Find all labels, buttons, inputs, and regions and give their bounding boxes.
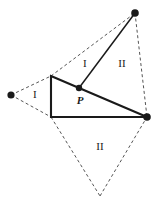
point-p-dot — [76, 85, 82, 91]
dashed-bottom-to-right — [100, 117, 147, 196]
dashed-left-to-lowerleft — [11, 95, 51, 117]
solid-segments-group — [79, 13, 135, 88]
solid-triangle — [51, 76, 147, 117]
left-vertex-dot — [7, 91, 14, 98]
dashed-lowerleft-to-bottom — [51, 117, 100, 196]
point-label-P: P — [77, 95, 84, 106]
region-label-left-I: I — [33, 89, 37, 100]
dashed-left-to-upperleft — [11, 76, 51, 95]
region-label-upper-II: II — [118, 58, 126, 69]
region-label-bottom-II: II — [96, 141, 104, 152]
region-label-upper-I: I — [83, 58, 87, 69]
segment-p-to-top — [79, 13, 135, 88]
solid-triangle-group — [51, 76, 147, 117]
top-vertex-dot — [131, 9, 139, 17]
figure-container: I I II II P — [0, 0, 157, 210]
dashed-top-to-right — [135, 13, 147, 117]
right-vertex-dot — [143, 113, 151, 121]
